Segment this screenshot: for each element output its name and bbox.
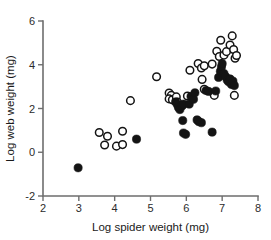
data-point-open [231,92,239,100]
data-point-open [198,76,206,84]
y-tick-label--2: -2 [25,190,35,202]
x-tick-label-4: 4 [112,202,118,214]
y-axis-title: Log web weight (mg) [4,55,16,162]
x-axis-title: Log spider weight (mg) [92,221,209,233]
data-point-open [208,60,216,68]
data-point-open [233,52,241,60]
data-point-filled [230,81,238,89]
x-tick-label-2: 2 [40,202,46,214]
data-point-open [217,36,225,44]
data-point-filled [193,116,201,124]
data-point-filled [179,116,187,124]
x-tick-label-6: 6 [183,202,189,214]
data-point-filled [208,128,216,136]
x-tick-label-7: 7 [219,202,225,214]
plot-canvas: 2345678-20246Log spider weight (mg)Log w… [0,0,271,240]
data-point-open [119,127,127,135]
data-point-open [101,141,109,149]
data-point-open [186,66,194,74]
y-tick-label-6: 6 [29,15,35,27]
data-point-filled [212,87,220,95]
data-point-filled [182,130,190,138]
data-point-filled [191,89,199,97]
y-tick-label-4: 4 [29,59,35,71]
data-point-filled [132,135,140,143]
x-tick-label-8: 8 [255,202,261,214]
data-point-open [119,141,127,149]
data-point-open [127,97,135,105]
data-point-open [228,32,236,40]
data-points-group [74,32,240,172]
data-point-filled [218,60,226,68]
x-tick-label-5: 5 [147,202,153,214]
data-point-open [200,62,208,70]
y-tick-label-2: 2 [29,103,35,115]
scatter-plot-figure: 2345678-20246Log spider weight (mg)Log w… [0,0,271,240]
data-point-open [104,132,112,140]
data-point-filled [74,164,82,172]
data-point-open [95,129,103,137]
data-point-open [153,73,161,81]
x-tick-label-3: 3 [76,202,82,214]
y-tick-label-0: 0 [29,146,35,158]
